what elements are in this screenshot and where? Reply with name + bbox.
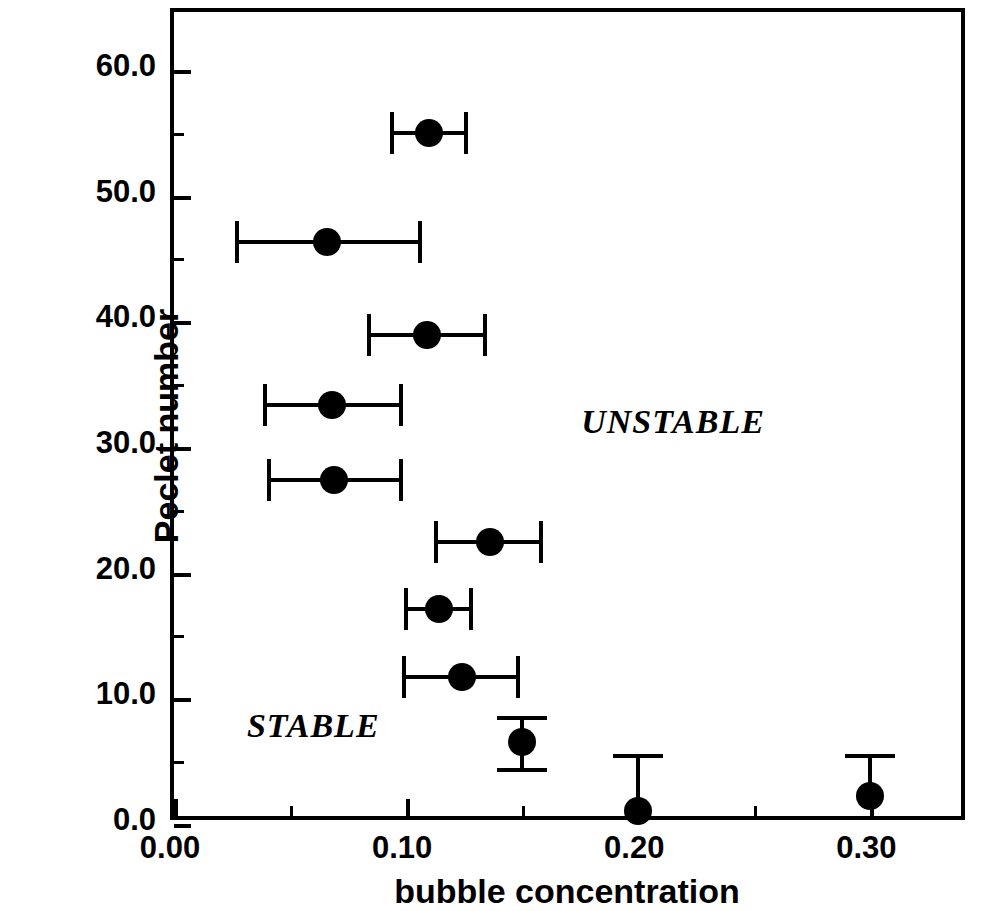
error-bar-cap — [464, 112, 468, 154]
y-axis-tick-label: 50.0 — [96, 174, 156, 210]
data-point — [313, 228, 341, 256]
x-axis-minor-tick — [754, 806, 757, 816]
y-axis-minor-tick — [174, 761, 184, 764]
error-bar-cap — [235, 221, 239, 263]
error-bar-cap — [469, 588, 473, 630]
error-bar-cap — [497, 716, 547, 720]
data-point — [476, 528, 504, 556]
y-axis-tick — [174, 321, 191, 325]
error-bar-cap — [516, 656, 520, 698]
data-point — [856, 782, 884, 810]
data-point — [624, 797, 652, 825]
x-axis-title: bubble concentration — [394, 872, 740, 911]
error-bar-cap — [267, 459, 271, 501]
error-bar-cap — [367, 314, 371, 356]
x-axis-minor-tick — [290, 806, 293, 816]
y-axis-tick — [174, 698, 191, 702]
error-bar-cap — [418, 221, 422, 263]
y-axis-tick-label: 10.0 — [96, 676, 156, 712]
error-bar-cap — [402, 656, 406, 698]
y-axis-tick — [174, 573, 191, 577]
scatter-chart-figure: Peclet number UNSTABLESTABLE bubble conc… — [0, 0, 983, 911]
region-label-unstable: UNSTABLE — [581, 403, 765, 441]
y-axis-minor-tick — [174, 384, 184, 387]
data-point — [318, 391, 346, 419]
data-point — [448, 663, 476, 691]
x-axis-tick — [174, 799, 178, 816]
data-point — [425, 595, 453, 623]
x-axis-tick — [406, 799, 410, 816]
data-point — [415, 119, 443, 147]
data-point — [413, 321, 441, 349]
y-axis-tick — [174, 196, 191, 200]
y-axis-minor-tick — [174, 635, 184, 638]
error-bar-cap — [390, 112, 394, 154]
y-axis-tick-label: 20.0 — [96, 551, 156, 587]
y-axis-tick — [174, 824, 191, 828]
x-axis-tick-label: 0.00 — [140, 830, 200, 866]
error-bar-cap — [434, 521, 438, 563]
y-axis-tick-label: 40.0 — [96, 299, 156, 335]
data-point — [320, 466, 348, 494]
region-label-stable: STABLE — [247, 707, 380, 745]
error-bar-cap — [483, 314, 487, 356]
y-axis-tick — [174, 447, 191, 451]
x-axis-tick-label: 0.10 — [372, 830, 432, 866]
y-axis-tick-label: 60.0 — [96, 48, 156, 84]
plot-frame: Peclet number UNSTABLESTABLE — [170, 8, 965, 820]
y-axis-tick-label: 30.0 — [96, 425, 156, 461]
plot-area — [174, 12, 961, 816]
error-bar-cap — [263, 384, 267, 426]
error-bar-cap — [404, 588, 408, 630]
error-bar-cap — [399, 459, 403, 501]
error-bar-cap — [845, 754, 895, 758]
y-axis-minor-tick — [174, 510, 184, 513]
error-bar-cap — [399, 384, 403, 426]
y-axis-minor-tick — [174, 258, 184, 261]
error-bar-cap — [497, 768, 547, 772]
y-axis-tick — [174, 70, 191, 74]
x-axis-tick-label: 0.30 — [836, 830, 896, 866]
x-axis-tick-label: 0.20 — [604, 830, 664, 866]
data-point — [508, 728, 536, 756]
error-bar-cap — [613, 754, 663, 758]
y-axis-minor-tick — [174, 133, 184, 136]
x-axis-minor-tick — [522, 806, 525, 816]
error-bar-cap — [539, 521, 543, 563]
